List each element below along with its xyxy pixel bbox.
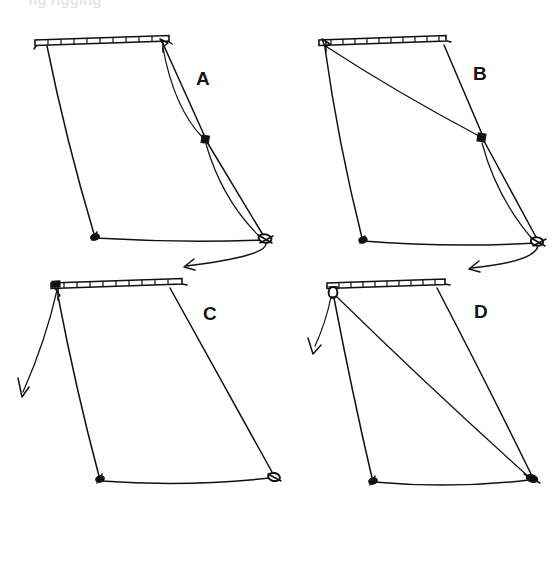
panel-c-label: C xyxy=(203,303,217,324)
spar-end-right xyxy=(168,41,172,44)
rigging-diagram-svg: fig rigging xyxy=(0,0,559,585)
panel-a: A xyxy=(34,36,273,271)
panel-c-spar xyxy=(51,279,187,289)
panel-a-clew-ring xyxy=(258,233,273,244)
spar-end-right xyxy=(447,41,451,42)
panel-b-tack-knot xyxy=(358,236,368,244)
panel-d-tack-knot xyxy=(368,476,378,485)
panel-b-label: B xyxy=(473,63,487,84)
panel-a-spar xyxy=(34,36,172,50)
panel-a-sheet-upper-bow xyxy=(163,48,203,138)
clipped-header-remnant: fig rigging xyxy=(28,0,101,8)
panel-b-sheet-bow xyxy=(482,143,534,241)
panel-b-leech-lower xyxy=(484,141,536,237)
panel-b-square-knot xyxy=(477,133,486,142)
spar-end-left xyxy=(34,46,36,49)
panel-c-clew-ring xyxy=(267,472,281,482)
spar-end-right xyxy=(445,284,450,285)
spar-rail xyxy=(35,36,169,46)
panel-d-spar xyxy=(327,279,450,289)
spar-end-right xyxy=(182,284,187,285)
panel-a-leech-lower xyxy=(207,142,263,235)
panel-c-luff xyxy=(58,296,99,476)
panel-a-sheet-tail xyxy=(186,243,266,266)
panel-a-label: A xyxy=(196,68,210,89)
panel-b-diagonal-brace xyxy=(327,47,479,136)
panel-d-foot xyxy=(374,480,529,485)
panel-d-slack-line xyxy=(315,297,331,346)
figure-root: fig rigging xyxy=(0,0,559,585)
panel-a-foot xyxy=(95,238,262,241)
panel-a-leech-upper xyxy=(164,46,205,137)
panel-d: D xyxy=(308,279,540,485)
panel-a-luff xyxy=(47,46,94,234)
spar-rail xyxy=(327,279,445,289)
clipped-header-text: fig rigging xyxy=(28,0,101,8)
panel-c-leech xyxy=(170,288,272,472)
head-cleat xyxy=(52,281,60,287)
panel-b: B xyxy=(319,36,546,273)
panel-a-square-knot xyxy=(201,135,209,143)
panel-c-slack-line xyxy=(23,290,57,392)
panel-b-clew-ring xyxy=(530,236,546,246)
panel-b-sheet-tail xyxy=(471,246,538,268)
panel-c: C xyxy=(18,279,281,484)
panel-c-foot xyxy=(101,478,270,483)
panel-d-clew-knot xyxy=(524,473,540,484)
panel-b-foot xyxy=(363,241,535,245)
panel-d-label: D xyxy=(474,301,488,322)
panel-a-tack-knot xyxy=(90,232,101,241)
panel-a-sheet-lower-bow xyxy=(206,144,261,238)
panel-b-spar xyxy=(319,36,451,46)
panel-b-luff xyxy=(325,48,362,238)
